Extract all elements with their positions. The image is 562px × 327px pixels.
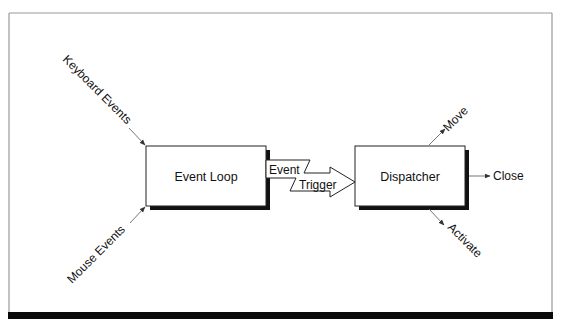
activate-arrow xyxy=(429,209,444,225)
frame-bottom-bar xyxy=(8,312,553,319)
connector-label-trigger: Trigger xyxy=(299,178,337,192)
dispatcher-label: Dispatcher xyxy=(380,170,440,184)
move-output: Move xyxy=(429,103,471,145)
keyboard-events-arrow xyxy=(129,128,145,145)
event-trigger-connector: Event Trigger xyxy=(266,160,355,197)
event-loop-node: Event Loop xyxy=(146,146,270,210)
event-loop-label: Event Loop xyxy=(174,170,237,184)
mouse-events-input: Mouse Events xyxy=(64,207,145,286)
event-flow-diagram: Event Loop Dispatcher Event Trigger Keyb… xyxy=(0,0,562,327)
close-label: Close xyxy=(493,169,524,183)
keyboard-events-label: Keyboard Events xyxy=(60,52,135,127)
move-arrow xyxy=(429,129,445,145)
move-label: Move xyxy=(440,103,471,134)
close-output: Close xyxy=(469,169,524,183)
mouse-events-label: Mouse Events xyxy=(64,222,128,286)
activate-output: Activate xyxy=(429,209,485,261)
mouse-events-arrow xyxy=(130,207,145,223)
dispatcher-node: Dispatcher xyxy=(355,146,469,210)
activate-label: Activate xyxy=(445,220,485,260)
connector-label-event: Event xyxy=(269,163,300,177)
keyboard-events-input: Keyboard Events xyxy=(60,52,145,145)
